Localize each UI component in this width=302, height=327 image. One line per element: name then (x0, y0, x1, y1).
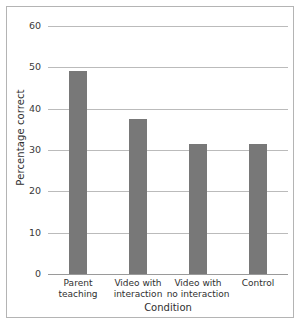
x-axis-tick-label-line1: Video with (174, 278, 221, 288)
x-axis-tick-label-line1: Parent (64, 278, 93, 288)
bar-chart-figure: Percentage correct 0102030405060 Conditi… (0, 0, 302, 327)
x-axis-tick-label-line1: Video with (114, 278, 161, 288)
y-axis-tick-label: 50 (29, 63, 41, 73)
x-axis-tick-label: Parentteaching (58, 278, 97, 300)
gridline (48, 26, 288, 27)
gridline (48, 67, 288, 68)
y-axis-tick-label: 60 (29, 21, 41, 31)
x-axis-title-text: Condition (144, 302, 192, 313)
y-axis-tick-label: 20 (29, 187, 41, 197)
bar (249, 144, 267, 274)
bar (69, 71, 87, 274)
x-axis-tick-label-line2: no interaction (167, 289, 230, 300)
y-axis-title: Percentage correct (12, 0, 28, 274)
x-axis-tick-label: Video withinteraction (114, 278, 163, 300)
x-axis-tick-label: Video withno interaction (167, 278, 230, 300)
y-axis-title-text: Percentage correct (15, 89, 26, 185)
y-axis-tick-label: 30 (29, 145, 41, 155)
bar (129, 119, 147, 274)
plot-area: 0102030405060 (48, 26, 288, 274)
bar (189, 144, 207, 274)
x-axis-tick-label-line1: Control (242, 278, 275, 288)
x-axis-line (48, 274, 288, 275)
y-axis-tick-label: 10 (29, 228, 41, 238)
x-axis-tick-label-line2: teaching (58, 289, 97, 300)
x-axis-title: Condition (48, 302, 288, 313)
y-axis-tick-label: 40 (29, 104, 41, 114)
x-axis-tick-label: Control (242, 278, 275, 289)
y-axis-tick-label: 0 (35, 269, 41, 279)
x-axis-tick-label-line2: interaction (114, 289, 163, 300)
